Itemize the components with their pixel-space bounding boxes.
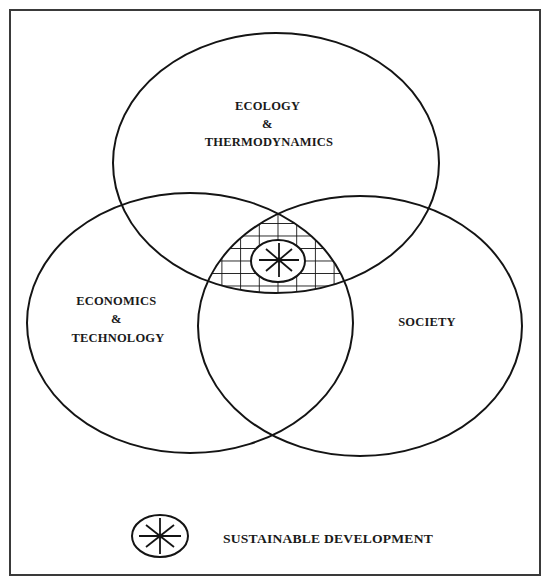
ecology-line-3: THERMODYNAMICS	[205, 135, 334, 149]
economics-line-3: TECHNOLOGY	[72, 331, 165, 345]
ecology-line-1: ECOLOGY	[235, 99, 300, 113]
economics-label: ECONOMICS & TECHNOLOGY	[72, 294, 165, 345]
sustainable-development-venn-diagram: ECOLOGY & THERMODYNAMICS ECONOMICS & TEC…	[0, 0, 547, 582]
economics-line-2: &	[111, 312, 122, 326]
legend-label: SUSTAINABLE DEVELOPMENT	[223, 532, 433, 546]
legend-asterisk-in-ellipse-icon	[132, 515, 188, 557]
society-label: SOCIETY	[398, 315, 456, 329]
ecology-line-2: &	[262, 117, 273, 131]
economics-line-1: ECONOMICS	[76, 294, 156, 308]
legend: SUSTAINABLE DEVELOPMENT	[132, 515, 433, 557]
ecology-label: ECOLOGY & THERMODYNAMICS	[205, 99, 334, 149]
society-line-1: SOCIETY	[398, 315, 456, 329]
sustainable-development-marker-icon	[251, 240, 305, 282]
